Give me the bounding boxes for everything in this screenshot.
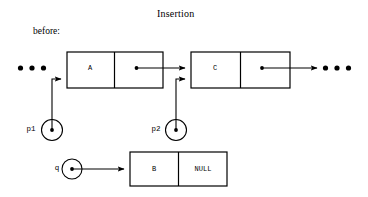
node-a-data-label: A xyxy=(88,65,92,72)
node-b xyxy=(130,152,227,186)
left-ellipsis-dots xyxy=(18,65,46,70)
node-a xyxy=(67,52,185,88)
pointer-q xyxy=(62,159,124,179)
node-c-data-label: C xyxy=(213,65,217,72)
right-ellipsis-dots xyxy=(323,65,351,70)
pointer-q-label: q xyxy=(55,165,60,173)
pointer-p1 xyxy=(42,79,63,141)
node-b-data-label: B xyxy=(152,166,156,173)
pointer-p2 xyxy=(166,79,187,141)
node-c xyxy=(191,52,317,88)
node-b-next-label: NULL xyxy=(195,166,212,173)
pointer-p1-label: p1 xyxy=(26,126,35,134)
pointer-p2-label: p2 xyxy=(151,126,160,134)
figure-canvas: Insertion before: xyxy=(0,0,368,197)
